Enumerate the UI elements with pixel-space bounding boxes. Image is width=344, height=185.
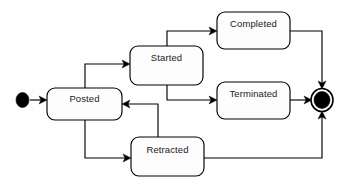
node-state-retracted[interactable]: Retracted: [131, 137, 204, 176]
edge-path: [85, 64, 128, 88]
edge-path: [204, 114, 322, 158]
edge-path: [85, 120, 129, 158]
edge-path: [290, 31, 322, 86]
state-diagram-canvas: Posted Started Completed Terminated Retr…: [0, 0, 344, 185]
edge-posted-to-retracted[interactable]: [85, 120, 131, 162]
edge-completed-to-final[interactable]: [290, 31, 326, 89]
edge-terminated-to-final[interactable]: [290, 96, 312, 104]
state-label-retracted: Retracted: [146, 144, 188, 155]
edge-path: [124, 104, 158, 137]
edge-path: [167, 85, 215, 100]
edge-started-to-completed[interactable]: [167, 27, 217, 46]
state-diagram-svg: Posted Started Completed Terminated Retr…: [0, 0, 344, 185]
edge-posted-to-started[interactable]: [85, 60, 130, 88]
edge-initial-to-posted[interactable]: [30, 96, 47, 104]
state-label-posted: Posted: [69, 93, 99, 104]
node-state-started[interactable]: Started: [130, 46, 203, 85]
initial-state-icon: [16, 93, 29, 108]
edge-path: [167, 31, 215, 46]
node-final-state[interactable]: [311, 89, 333, 112]
node-state-terminated[interactable]: Terminated: [217, 82, 290, 119]
node-state-posted[interactable]: Posted: [47, 88, 122, 120]
state-label-completed: Completed: [230, 18, 277, 29]
edge-started-to-terminated[interactable]: [167, 85, 217, 104]
node-layer: Posted Started Completed Terminated Retr…: [16, 12, 333, 176]
state-label-started: Started: [151, 52, 182, 63]
node-state-completed[interactable]: Completed: [217, 12, 290, 49]
edge-retracted-to-posted[interactable]: [122, 100, 158, 137]
node-initial-state[interactable]: [16, 93, 29, 108]
final-state-core-icon: [314, 92, 330, 109]
state-label-terminated: Terminated: [230, 88, 278, 99]
